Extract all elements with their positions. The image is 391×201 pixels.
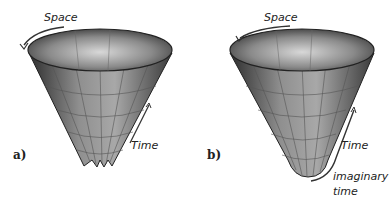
cone-top bbox=[28, 29, 172, 71]
space-label: Space bbox=[264, 11, 298, 24]
panel-label-a: a) bbox=[13, 148, 26, 162]
panel-label-b: b) bbox=[207, 148, 221, 162]
panel-b: Space Time imaginary time b) bbox=[196, 0, 391, 201]
imaginary-time-label-line1: imaginary bbox=[333, 170, 389, 183]
panel-a: Space Time a) bbox=[0, 0, 195, 201]
space-label: Space bbox=[44, 11, 78, 24]
time-label: Time bbox=[341, 139, 368, 152]
time-label: Time bbox=[131, 139, 158, 152]
imaginary-time-label-line2: time bbox=[333, 185, 358, 198]
cone-top bbox=[230, 29, 374, 71]
